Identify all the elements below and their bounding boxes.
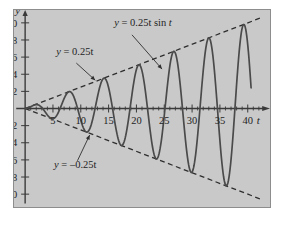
x-tick-label: 25	[159, 115, 170, 126]
y-tick-label: –4	[14, 137, 18, 148]
y-tick-label: 2	[14, 86, 17, 97]
x-tick-label: 10	[76, 115, 87, 126]
x-tick-label: 20	[131, 115, 142, 126]
y-tick-label: 6	[14, 52, 17, 63]
upper-envelope-label: y = 0.25t	[55, 46, 93, 57]
y-axis-label: y	[14, 10, 20, 16]
curve-label-leader	[132, 35, 162, 69]
x-tick-label: 15	[103, 115, 114, 126]
plot-canvas: 510152025303540 108642–2–4–6–8–10 t y y …	[14, 10, 270, 207]
x-axis-arrow	[262, 106, 270, 111]
axes-group	[16, 10, 270, 204]
plot-panel: 510152025303540 108642–2–4–6–8–10 t y y …	[13, 9, 271, 208]
x-tick-label: 5	[50, 115, 55, 126]
upper-envelope-line	[25, 17, 262, 108]
y-tick-label: 10	[14, 18, 17, 29]
x-axis-tick-labels: 510152025303540	[50, 115, 253, 126]
y-tick-label: 8	[14, 35, 17, 46]
y-tick-label: –6	[14, 155, 17, 166]
curve-label: y = 0.25t sin t	[113, 17, 173, 28]
y-tick-label: –8	[14, 172, 17, 183]
y-tick-label: –10	[14, 189, 17, 200]
y-tick-label: –2	[14, 120, 17, 131]
lower-envelope-label: y = –0.25t	[53, 159, 96, 170]
y-tick-label: 4	[14, 69, 18, 80]
x-tick-label: 35	[215, 115, 226, 126]
y-axis-arrow	[23, 10, 28, 16]
x-axis-label: t	[257, 114, 261, 126]
x-tick-label: 30	[187, 115, 198, 126]
x-tick-label: 40	[242, 115, 253, 126]
figure-root: 510152025303540 108642–2–4–6–8–10 t y y …	[0, 0, 286, 226]
